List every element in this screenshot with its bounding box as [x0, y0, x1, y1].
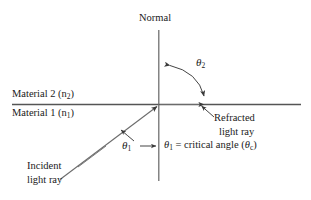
incident-label-leader: [78, 146, 106, 167]
refracted-label-leader: [202, 106, 215, 117]
material-1-text: Material 1 (n: [12, 107, 67, 118]
normal-label: Normal: [139, 12, 171, 25]
incident-ray-label-line1: Incident: [27, 160, 61, 173]
material-1-paren: ): [71, 107, 75, 118]
material-2-paren: ): [71, 88, 75, 99]
refraction-critical-angle-diagram: Normal Material 2 (n2) Material 1 (n1) R…: [0, 0, 311, 200]
theta2-subscript: 2: [201, 61, 205, 70]
material-2-text: Material 2 (n: [12, 88, 67, 99]
theta2-label: θ2: [196, 56, 205, 69]
critical-equation-text: = critical angle (: [173, 139, 245, 150]
critical-angle-equation: θ1 = critical angle (θc): [164, 139, 257, 152]
refracted-ray-label-line2: light ray: [219, 126, 254, 139]
critical-close-paren: ): [253, 139, 257, 150]
refracted-ray-label-line1: Refracted: [214, 112, 255, 125]
theta1-label: θ1: [122, 139, 131, 152]
material-2-label: Material 2 (n2): [12, 88, 74, 101]
material-1-label: Material 1 (n1): [12, 107, 74, 120]
incident-ray-label-line2: light ray: [27, 174, 62, 187]
incident-ray-line: [60, 107, 157, 180]
theta1-subscript: 1: [127, 144, 131, 153]
theta2-arc: [170, 66, 204, 97]
